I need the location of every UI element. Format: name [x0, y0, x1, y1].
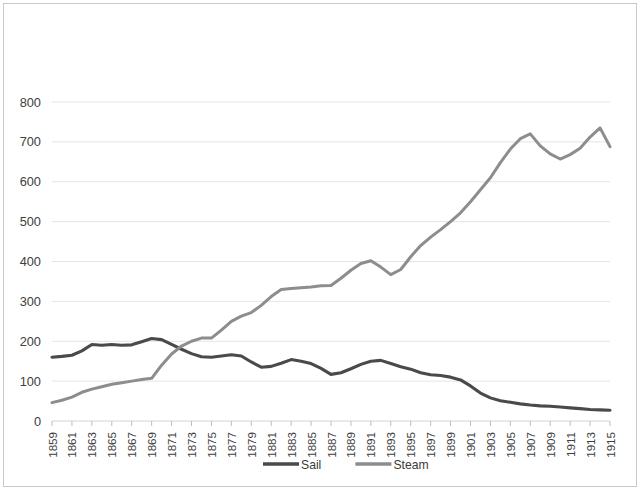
x-tick-label: 1863: [85, 432, 98, 458]
y-tick-label: 700: [20, 134, 41, 149]
chart-container: 0100200300400500600700800 18591861186318…: [0, 0, 641, 492]
legend-group: SailSteam: [263, 458, 429, 472]
x-tick-label: 1911: [564, 432, 577, 457]
series-line-sail: [52, 338, 610, 410]
x-tick-label: 1881: [265, 432, 278, 458]
x-tick-label: 1879: [245, 432, 258, 458]
x-tick-label: 1885: [305, 432, 318, 458]
x-tick-label: 1887: [325, 432, 338, 458]
x-tick-label: 1883: [285, 432, 298, 458]
x-tick-label: 1903: [484, 432, 497, 458]
y-tick-labels-group: 0100200300400500600700800: [20, 95, 41, 429]
chart-plot-svg: 0100200300400500600700800 18591861186318…: [0, 0, 641, 492]
legend-label-sail: Sail: [301, 458, 321, 472]
y-tick-label: 300: [20, 294, 41, 309]
x-tick-label: 1875: [205, 432, 218, 458]
y-tick-label: 500: [20, 214, 41, 229]
x-tick-label: 1909: [544, 432, 557, 458]
x-tick-label: 1893: [384, 432, 397, 458]
x-tick-labels-group: 1859186118631865186718691871187318751877…: [46, 432, 617, 458]
series-group: [52, 128, 610, 410]
x-tick-label: 1867: [125, 432, 138, 458]
x-tick-label: 1895: [404, 432, 417, 458]
x-tick-label: 1899: [444, 432, 457, 458]
x-tick-label: 1907: [524, 432, 537, 458]
y-tick-label: 100: [20, 374, 41, 389]
x-tick-label: 1889: [344, 432, 357, 458]
x-tick-label: 1913: [584, 432, 597, 458]
series-line-steam: [52, 128, 610, 403]
y-tick-label: 600: [20, 174, 41, 189]
x-tick-label: 1869: [145, 432, 158, 458]
x-tick-label: 1905: [504, 432, 517, 458]
x-tick-label: 1877: [225, 432, 238, 458]
x-tick-label: 1915: [604, 432, 617, 458]
legend-label-steam: Steam: [393, 458, 428, 472]
x-tick-label: 1891: [364, 432, 377, 458]
y-tick-label: 800: [20, 95, 41, 110]
gridlines-group: [52, 102, 610, 426]
x-tick-label: 1871: [165, 432, 178, 458]
y-tick-label: 0: [34, 414, 41, 429]
y-tick-label: 400: [20, 254, 41, 269]
x-tick-label: 1873: [185, 432, 198, 458]
y-tick-label: 200: [20, 334, 41, 349]
x-tick-label: 1901: [464, 432, 477, 458]
x-tick-label: 1861: [65, 432, 78, 458]
x-tick-label: 1859: [46, 432, 59, 458]
x-tick-label: 1865: [105, 432, 118, 458]
x-tick-label: 1897: [424, 432, 437, 458]
